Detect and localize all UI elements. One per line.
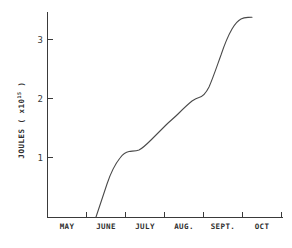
- chart-figure: 1 2 3 MAY JUNE JULY AUG. SEPT. OCT JOULE…: [0, 0, 292, 248]
- y-axis-title-main: JOULES ( x10: [17, 98, 26, 158]
- y-axis-title: JOULES ( x1015 ): [16, 81, 26, 158]
- y-tick-label-3: 3: [38, 35, 43, 45]
- x-tick-label-may: MAY: [60, 222, 75, 231]
- y-axis-title-group: JOULES ( x1015 ): [16, 81, 26, 158]
- x-tick-label-oct: OCT: [255, 222, 270, 231]
- y-axis-title-close: ): [17, 81, 26, 91]
- y-axis-title-exponent: 15: [16, 91, 22, 98]
- y-tick-label-1: 1: [38, 153, 43, 163]
- x-tick-label-sept: SEPT.: [211, 222, 236, 231]
- line-chart-canvas: 1 2 3 MAY JUNE JULY AUG. SEPT. OCT JOULE…: [0, 0, 292, 248]
- x-tick-label-june: JUNE: [96, 222, 116, 231]
- x-tick-label-july: JULY: [135, 222, 155, 231]
- y-tick-label-2: 2: [38, 94, 43, 104]
- x-tick-label-aug: AUG.: [174, 222, 194, 231]
- data-curve-cumulative-joules: [96, 17, 252, 217]
